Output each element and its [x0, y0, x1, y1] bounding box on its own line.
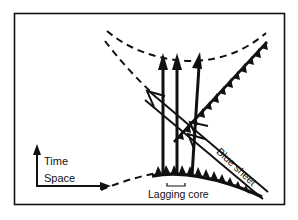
figure-container: Time Space Lagging core Blue sheet: [0, 0, 298, 220]
lagging-core-label: Lagging core: [148, 189, 209, 200]
time-axis-label: Time: [44, 156, 68, 167]
diagram-canvas: [0, 0, 298, 220]
space-axis-label: Space: [44, 173, 75, 184]
